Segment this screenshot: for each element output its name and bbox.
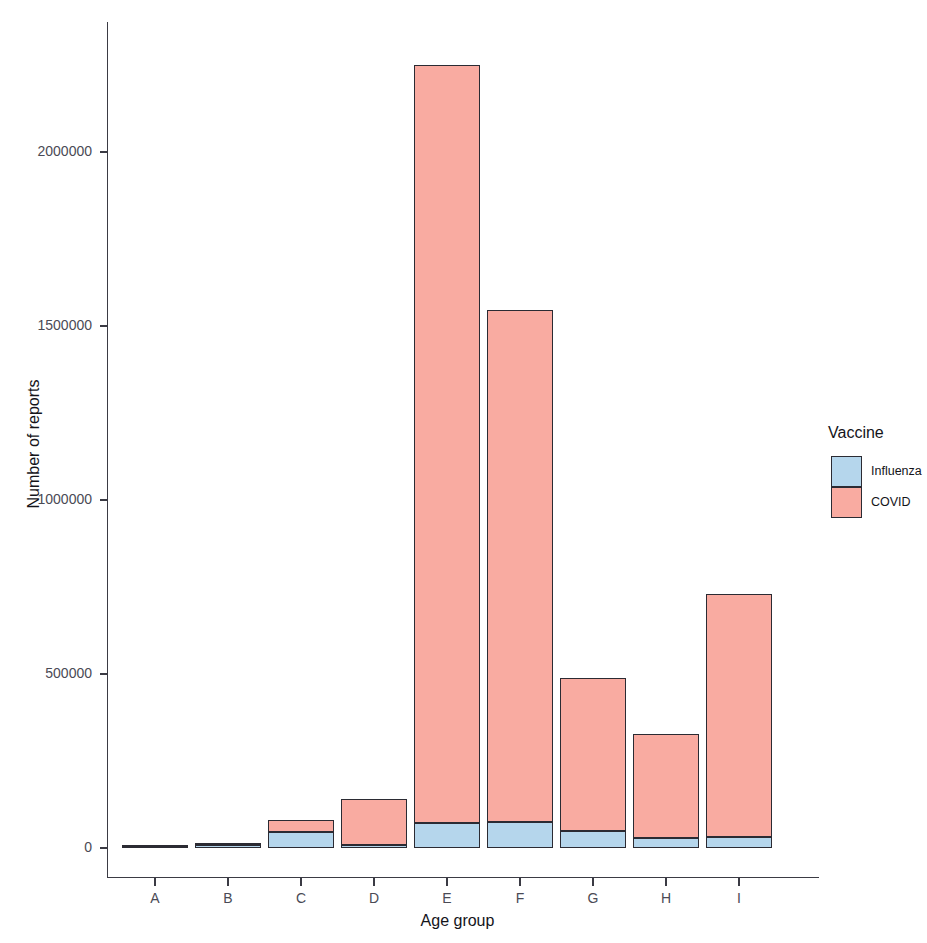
x-tick-mark: [446, 878, 447, 886]
y-tick-label: 500000: [0, 665, 92, 681]
x-tick-mark: [592, 878, 593, 886]
bar-segment-covid-g[interactable]: [560, 678, 626, 831]
legend-swatch-covid: [831, 487, 862, 518]
bar-group-i[interactable]: [706, 22, 772, 848]
bar-segment-covid-f[interactable]: [487, 310, 553, 822]
x-tick-label-a: A: [140, 890, 170, 906]
bar-group-f[interactable]: [487, 22, 553, 848]
x-axis-line: [107, 877, 819, 878]
x-tick-mark: [300, 878, 301, 886]
legend-title: Vaccine: [828, 424, 927, 442]
bar-segment-covid-d[interactable]: [341, 799, 407, 845]
bar-group-b[interactable]: [195, 22, 261, 848]
bar-segment-influenza-h[interactable]: [633, 838, 699, 848]
bar-segment-influenza-b[interactable]: [195, 845, 261, 848]
x-tick-label-h: H: [651, 890, 681, 906]
x-tick-label-b: B: [213, 890, 243, 906]
legend-label-influenza: Influenza: [871, 456, 922, 487]
x-tick-label-i: I: [724, 890, 754, 906]
bar-group-g[interactable]: [560, 22, 626, 848]
bar-segment-influenza-e[interactable]: [414, 823, 480, 848]
y-tick-label: 2000000: [0, 143, 92, 159]
bar-group-d[interactable]: [341, 22, 407, 848]
x-tick-label-f: F: [505, 890, 535, 906]
y-axis-title: Number of reports: [25, 94, 43, 794]
plot-area: [107, 22, 819, 848]
bar-segment-covid-e[interactable]: [414, 65, 480, 823]
x-tick-mark: [519, 878, 520, 886]
bar-segment-covid-a[interactable]: [122, 845, 188, 847]
bar-segment-covid-i[interactable]: [706, 594, 772, 837]
bar-segment-influenza-f[interactable]: [487, 822, 553, 848]
x-axis-title: Age group: [0, 912, 915, 930]
bar-segment-covid-b[interactable]: [195, 843, 261, 845]
bar-group-e[interactable]: [414, 22, 480, 848]
x-tick-mark: [227, 878, 228, 886]
x-tick-label-d: D: [359, 890, 389, 906]
y-tick-label: 1500000: [0, 317, 92, 333]
legend-swatch-influenza: [831, 456, 862, 487]
x-tick-label-c: C: [286, 890, 316, 906]
x-tick-mark: [665, 878, 666, 886]
bar-group-a[interactable]: [122, 22, 188, 848]
bar-segment-covid-h[interactable]: [633, 734, 699, 838]
y-tick-label: 1000000: [0, 491, 92, 507]
x-tick-mark: [154, 878, 155, 886]
bar-segment-influenza-d[interactable]: [341, 845, 407, 848]
bar-segment-covid-c[interactable]: [268, 820, 334, 832]
legend-keys: InfluenzaCOVID: [831, 456, 862, 518]
bar-segment-influenza-g[interactable]: [560, 831, 626, 848]
x-tick-label-e: E: [432, 890, 462, 906]
bar-segment-influenza-c[interactable]: [268, 832, 334, 848]
y-tick-label: 0: [0, 839, 92, 855]
bar-group-c[interactable]: [268, 22, 334, 848]
x-tick-label-g: G: [578, 890, 608, 906]
bar-segment-influenza-i[interactable]: [706, 837, 772, 848]
legend: Vaccine InfluenzaCOVID: [828, 424, 927, 518]
bar-group-h[interactable]: [633, 22, 699, 848]
legend-label-covid: COVID: [871, 487, 911, 518]
x-tick-mark: [373, 878, 374, 886]
x-tick-mark: [738, 878, 739, 886]
